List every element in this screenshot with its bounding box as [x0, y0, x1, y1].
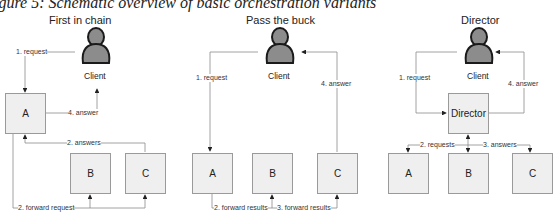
edge-label-answer: 4. answer — [68, 109, 98, 117]
service-box-c: C — [125, 153, 166, 194]
service-box-a: A — [192, 153, 233, 194]
service-box-c: C — [512, 153, 553, 194]
client-label: Client — [84, 71, 106, 81]
edge-label-answers: 2. answers — [67, 139, 101, 147]
edge-label-answers: 3. answers — [483, 141, 517, 149]
edge-label-request: 1. request — [399, 74, 430, 82]
edge-label-forward-results-1: 2. forward results — [214, 204, 268, 212]
service-box-a: A — [388, 153, 429, 194]
service-box-c: C — [317, 153, 358, 194]
edge-label-forward-results-2: 3. forward results — [277, 204, 331, 212]
service-box-a: A — [5, 93, 46, 134]
panel-title-first-in-chain: First in chain — [49, 14, 111, 26]
client-user-icon — [264, 27, 296, 65]
edge-label-request: 1. request — [16, 48, 47, 56]
client-label: Client — [467, 71, 489, 81]
edge-label-forward-request: 2. forward request — [18, 204, 74, 212]
service-box-b: B — [252, 153, 293, 194]
edge-label-request: 1. request — [196, 74, 227, 82]
client-label: Client — [268, 71, 290, 81]
client-user-icon — [80, 27, 112, 65]
edge-label-answer: 4. answer — [508, 80, 538, 88]
director-box: Director — [448, 93, 489, 134]
client-user-icon — [463, 27, 495, 65]
service-box-b: B — [448, 153, 489, 194]
panel-title-director: Director — [461, 14, 500, 26]
service-box-b: B — [70, 153, 111, 194]
edge-label-requests: 2. requests — [420, 141, 455, 149]
panel-title-pass-the-buck: Pass the buck — [246, 14, 315, 26]
edge-label-answer: 4. answer — [321, 80, 351, 88]
